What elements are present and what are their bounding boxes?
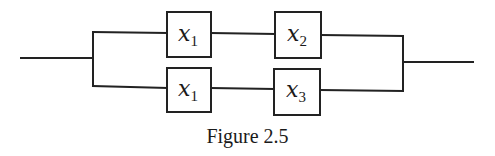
top-wire-mid: [211, 33, 275, 34]
bottom-wire-in: [93, 86, 167, 88]
component-bottom-1: x1: [167, 68, 211, 112]
top-wire-out: [321, 35, 403, 36]
component-bottom-2: x3: [274, 69, 320, 115]
component-top-1: x1: [167, 12, 211, 57]
bottom-wire-mid: [211, 88, 274, 89]
figure-caption: Figure 2.5: [0, 125, 495, 148]
component-top-2: x2: [275, 12, 321, 58]
bottom-wire-out: [320, 90, 403, 91]
top-wire-in: [93, 32, 167, 33]
